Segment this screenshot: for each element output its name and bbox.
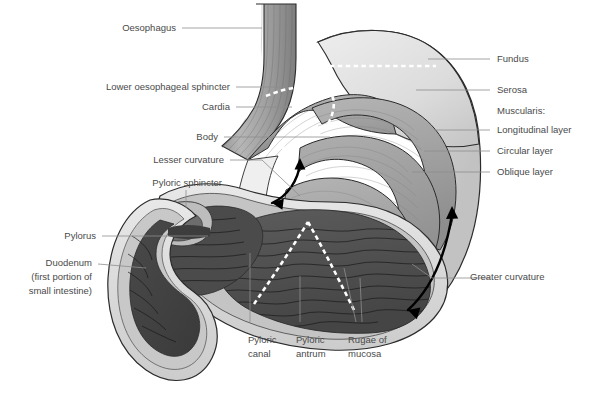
stomach-anatomy-svg: Oesophagus Lower oesophageal sphincter C… bbox=[0, 0, 590, 397]
label-pyloric-sphincter: Pyloric sphincter bbox=[152, 177, 222, 188]
pylorus-lumen-connection bbox=[168, 225, 210, 239]
label-duodenum-line1: Duodenum bbox=[46, 257, 93, 268]
label-duodenum-line2: (first portion of bbox=[31, 271, 92, 282]
label-oesophagus: Oesophagus bbox=[122, 22, 176, 33]
label-serosa: Serosa bbox=[497, 84, 528, 95]
label-greater-curvature: Greater curvature bbox=[470, 271, 544, 282]
label-pyloric-antrum-line2: antrum bbox=[296, 348, 326, 359]
label-muscularis: Muscularis: bbox=[497, 105, 545, 116]
label-lower-oesophageal-sphincter: Lower oesophageal sphincter bbox=[106, 81, 230, 92]
label-rugae-of-mucosa-line1: Rugae of bbox=[348, 334, 387, 345]
label-cardia: Cardia bbox=[202, 101, 231, 112]
label-longitudinal-layer: Longitudinal layer bbox=[497, 124, 571, 135]
label-pyloric-antrum-line1: Pyloric bbox=[296, 334, 325, 345]
label-fundus: Fundus bbox=[497, 53, 529, 64]
fundus-region bbox=[318, 30, 479, 146]
label-pyloric-canal-line1: Pyloric bbox=[248, 334, 277, 345]
label-pyloric-canal-line2: canal bbox=[248, 348, 271, 359]
label-duodenum-line3: small intestine) bbox=[29, 285, 92, 296]
label-circular-layer: Circular layer bbox=[497, 145, 553, 156]
label-body: Body bbox=[196, 131, 218, 142]
diagram-canvas: Oesophagus Lower oesophageal sphincter C… bbox=[0, 0, 590, 397]
label-oblique-layer: Oblique layer bbox=[497, 166, 553, 177]
label-pylorus: Pylorus bbox=[64, 230, 96, 241]
label-lesser-curvature: Lesser curvature bbox=[153, 154, 224, 165]
label-rugae-of-mucosa-line2: mucosa bbox=[348, 348, 382, 359]
